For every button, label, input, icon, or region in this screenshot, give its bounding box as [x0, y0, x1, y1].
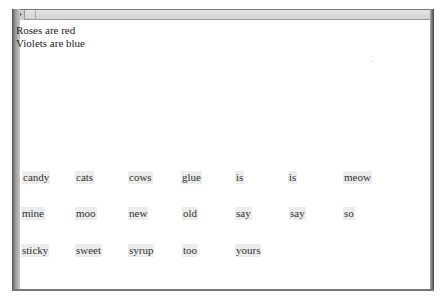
word-tile[interactable]: mine	[21, 207, 45, 220]
word-tile[interactable]: say	[235, 207, 252, 220]
poem-line: Roses are red	[16, 24, 85, 37]
poem-text[interactable]: Roses are red Violets are blue	[16, 24, 85, 50]
word-tile[interactable]: syrup	[128, 244, 154, 257]
word-tile[interactable]: old	[182, 207, 198, 220]
word-tile[interactable]: sticky	[21, 244, 49, 257]
word-tile[interactable]: say	[289, 207, 306, 220]
word-tile[interactable]: is	[235, 171, 244, 184]
word-tile[interactable]: candy	[22, 171, 50, 184]
word-tile[interactable]: new	[128, 207, 148, 220]
toolbar-tab[interactable]	[25, 10, 36, 20]
top-toolbar: ▾	[12, 9, 434, 20]
word-tile[interactable]: is	[288, 171, 297, 184]
left-scrollbar[interactable]	[12, 9, 20, 291]
word-tile[interactable]: cats	[75, 171, 94, 184]
word-tile[interactable]: meow	[343, 171, 372, 184]
word-tile[interactable]: sweet	[75, 244, 102, 257]
word-tile[interactable]: moo	[75, 207, 97, 220]
word-tile[interactable]: so	[343, 207, 355, 220]
word-tile[interactable]: too	[182, 244, 198, 257]
word-tile[interactable]: cows	[128, 171, 153, 184]
word-tile[interactable]: yours	[235, 244, 261, 257]
word-tile[interactable]: glue	[181, 171, 202, 184]
stray-dot	[372, 61, 373, 62]
right-border	[430, 9, 434, 291]
bottom-border	[12, 289, 434, 291]
poem-line: Violets are blue	[16, 37, 85, 50]
